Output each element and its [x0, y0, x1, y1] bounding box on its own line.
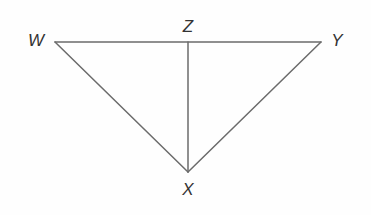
vertex-label-w: W — [28, 32, 44, 49]
vertex-label-z-text: Z — [183, 18, 193, 35]
vertex-label-y-text: Y — [331, 32, 342, 49]
vertex-label-z: Z — [183, 18, 193, 35]
segment-xy — [188, 42, 321, 172]
vertex-label-x-text: X — [182, 181, 193, 198]
segment-wx — [55, 42, 188, 172]
vertex-label-y: Y — [331, 32, 342, 49]
geometry-figure: W Z Y X — [0, 0, 371, 215]
vertex-label-w-text: W — [28, 32, 44, 49]
vertex-label-x: X — [182, 181, 193, 198]
